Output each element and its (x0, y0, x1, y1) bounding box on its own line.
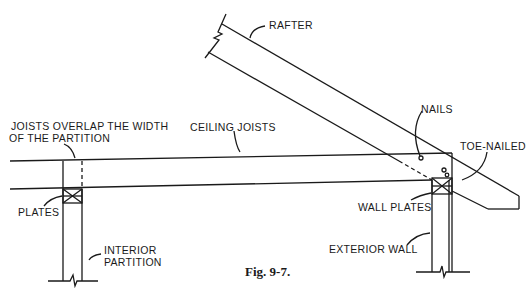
leader-joists-overlap (64, 144, 75, 158)
leader-ceiling-joists (234, 131, 240, 152)
ceiling-joist-bottom (10, 180, 432, 189)
label-plates: PLATES (18, 206, 59, 218)
label-exterior-wall: EXTERIOR WALL (329, 243, 418, 255)
leader-wall-plates (411, 193, 431, 200)
rafter-top-edge (222, 24, 519, 196)
rafter-break (205, 14, 226, 58)
nail-3 (445, 173, 449, 177)
nail-2 (442, 168, 446, 172)
leader-plates (44, 196, 62, 206)
leader-rafter (250, 26, 265, 38)
rafter-hidden-line (399, 161, 432, 180)
label-toe-nailed: TOE-NAILED (460, 140, 526, 152)
label-rafter: RAFTER (269, 19, 313, 31)
label-interior-partition-2: PARTITION (104, 256, 162, 268)
leader-nails (415, 111, 422, 156)
framing-diagram (0, 0, 530, 305)
partition-break (48, 275, 98, 286)
ceiling-joist-top (10, 153, 452, 161)
rafter-bottom-edge-2 (452, 191, 488, 209)
figure-caption: Fig. 9-7. (245, 264, 290, 280)
label-joists-overlap-1: JOISTS OVERLAP THE WIDTH (11, 120, 168, 132)
label-ceiling-joists: CEILING JOISTS (190, 121, 276, 133)
nail-1 (419, 156, 423, 160)
leader-interior-partition (89, 254, 101, 260)
label-joists-overlap-2: OF THE PARTITION (9, 132, 110, 144)
label-wall-plates: WALL PLATES (358, 201, 432, 213)
exterior-wall-break (416, 266, 470, 277)
label-interior-partition-1: INTERIOR (104, 244, 157, 256)
label-nails: NAILS (421, 103, 453, 115)
